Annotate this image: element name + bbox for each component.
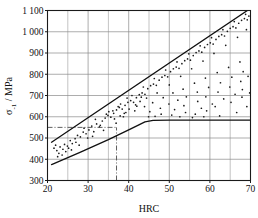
scatter-point: [194, 82, 196, 84]
scatter-point: [229, 28, 231, 30]
scatter-point: [197, 101, 199, 103]
scatter-point: [106, 113, 108, 115]
scatter-point: [135, 104, 137, 106]
scatter-point: [230, 101, 232, 103]
scatter-point: [120, 103, 122, 105]
scatter-point: [220, 82, 222, 84]
fatigue-strength-scatter-chart: 203040506070 3004005006007008009001 0001…: [0, 0, 258, 218]
scatter-point: [156, 92, 158, 94]
scatter-point: [92, 135, 94, 137]
x-tick-label-40: 40: [124, 184, 134, 194]
scatter-point: [171, 114, 173, 116]
scatter-point: [201, 107, 203, 109]
scatter-point: [59, 146, 61, 148]
scatter-point: [61, 154, 63, 156]
scatter-point: [198, 50, 200, 52]
scatter-point: [114, 118, 116, 120]
scatter-point: [222, 29, 224, 31]
scatter-point: [144, 93, 146, 95]
x-axis-title: HRC: [139, 203, 160, 214]
scatter-point: [205, 96, 207, 98]
scatter-point: [199, 45, 201, 47]
y-tick-label-400: 400: [29, 155, 44, 165]
scatter-point: [121, 108, 123, 110]
scatter-point: [141, 92, 143, 94]
scatter-point: [67, 145, 69, 147]
scatter-point: [179, 116, 181, 118]
scatter-point: [246, 29, 248, 31]
scatter-point: [188, 53, 190, 55]
scatter-point: [209, 42, 211, 44]
scatter-point: [68, 147, 70, 149]
scatter-point: [112, 110, 114, 112]
scatter-point: [124, 104, 126, 106]
scatter-point: [57, 156, 59, 158]
scatter-point: [101, 120, 103, 122]
scatter-point: [207, 44, 209, 46]
scatter-point: [175, 66, 177, 68]
scatter-point: [154, 115, 156, 117]
scatter-point: [155, 84, 157, 86]
scatter-point: [181, 63, 183, 65]
scatter-point: [153, 78, 155, 80]
x-tick-label-30: 30: [83, 184, 93, 194]
scatter-point: [192, 117, 194, 119]
scatter-point: [146, 97, 148, 99]
scatter-point: [160, 113, 162, 115]
scatter-point: [213, 53, 215, 55]
scatter-point: [177, 99, 179, 101]
scatter-point: [96, 123, 98, 125]
scatter-point: [190, 59, 192, 61]
scatter-point: [87, 137, 89, 139]
scatter-point: [160, 107, 162, 109]
scatter-point: [221, 34, 223, 36]
scatter-point: [139, 101, 141, 103]
scatter-point: [224, 35, 226, 37]
scatter-point: [176, 61, 178, 63]
y-tick-label-300: 300: [29, 176, 44, 186]
scatter-point: [206, 110, 208, 112]
scatter-point: [219, 115, 221, 117]
scatter-point: [191, 68, 193, 70]
scatter-point: [62, 148, 64, 150]
scatter-point: [65, 151, 67, 153]
scatter-point: [133, 101, 135, 103]
scatter-point: [136, 97, 138, 99]
scatter-point: [204, 47, 206, 49]
x-tick-label-20: 20: [43, 184, 53, 194]
scatter-point: [58, 152, 60, 154]
scatter-point: [195, 52, 197, 54]
scatter-point: [71, 149, 73, 151]
scatter-point: [103, 130, 105, 132]
scatter-point: [138, 94, 140, 96]
scatter-point: [140, 96, 142, 98]
scatter-point: [74, 138, 76, 140]
scatter-point: [205, 77, 207, 79]
scatter-point: [244, 18, 246, 20]
scatter-point: [113, 113, 115, 115]
scatter-point: [242, 89, 244, 91]
scatter-point: [234, 93, 236, 95]
scatter-point: [242, 71, 244, 73]
scatter-point: [185, 112, 187, 114]
scatter-point: [71, 143, 73, 145]
scatter-point: [158, 79, 160, 81]
scatter-point: [240, 81, 242, 83]
scatter-point: [232, 26, 234, 28]
scatter-point: [228, 67, 230, 69]
scatter-point: [130, 100, 132, 102]
scatter-point: [223, 98, 225, 100]
scatter-point: [192, 55, 194, 57]
scatter-point: [180, 76, 182, 78]
scatter-point: [55, 144, 57, 146]
scatter-point: [201, 51, 203, 53]
scatter-point: [95, 118, 97, 120]
scatter-point: [238, 22, 240, 24]
y-tick-label-700: 700: [29, 91, 44, 101]
scatter-point: [78, 144, 80, 146]
scatter-point: [225, 45, 227, 47]
scatter-point: [203, 116, 205, 118]
scatter-point: [123, 113, 125, 115]
scatter-point: [64, 144, 66, 146]
scatter-point: [245, 13, 247, 15]
